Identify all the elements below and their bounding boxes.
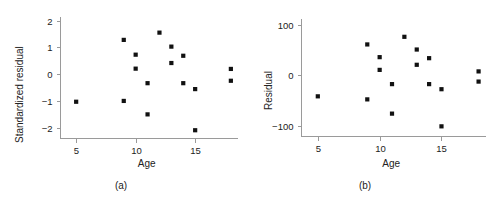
y-tick-label: −2 xyxy=(0,124,53,134)
y-tick-label: 0 xyxy=(0,70,53,80)
x-tick-label: 5 xyxy=(74,146,79,156)
data-point-marker xyxy=(193,87,197,91)
x-tick-label: 10 xyxy=(375,144,386,154)
x-tick-label: 10 xyxy=(131,146,142,156)
data-point-marker xyxy=(145,112,149,116)
data-point-marker xyxy=(439,87,443,91)
x-axis-title: Age xyxy=(382,158,400,169)
data-point-marker xyxy=(193,128,197,132)
data-point-marker xyxy=(316,94,320,98)
x-axis-title: Age xyxy=(138,158,156,169)
data-point-marker xyxy=(134,53,138,57)
data-point-marker xyxy=(122,38,126,42)
data-point-marker xyxy=(181,54,185,58)
data-point-marker xyxy=(427,56,431,60)
data-point-marker xyxy=(229,67,233,71)
data-point-marker xyxy=(365,42,369,46)
figure-scatterplot-pair: −2−101251015AgeStandardized residual(a) … xyxy=(0,0,486,206)
data-point-marker xyxy=(157,31,161,35)
panel-caption: (b) xyxy=(359,180,371,191)
y-tick-label: 100 xyxy=(243,21,294,31)
y-tick-label: −100 xyxy=(243,122,294,132)
x-tick-label: 15 xyxy=(436,144,447,154)
data-point-marker xyxy=(378,68,382,72)
data-point-marker xyxy=(402,35,406,39)
y-axis-title: Residual xyxy=(263,71,274,110)
data-point-marker xyxy=(229,79,233,83)
panel-b: −100010051015AgeResidual(b) xyxy=(243,0,486,206)
data-point-marker xyxy=(378,55,382,59)
data-point-marker xyxy=(427,82,431,86)
plot-canvas-b xyxy=(243,0,486,206)
panel-a: −2−101251015AgeStandardized residual(a) xyxy=(0,0,243,206)
data-point-marker xyxy=(145,81,149,85)
y-tick-label: 1 xyxy=(0,43,53,53)
y-tick-label: −1 xyxy=(0,97,53,107)
plot-area-b xyxy=(243,0,486,206)
data-point-marker xyxy=(181,81,185,85)
data-point-marker xyxy=(74,100,78,104)
data-point-marker xyxy=(476,79,480,83)
data-point-marker xyxy=(169,61,173,65)
x-tick-label: 5 xyxy=(316,144,321,154)
data-point-marker xyxy=(122,99,126,103)
x-tick-label: 15 xyxy=(190,146,201,156)
data-point-marker xyxy=(439,124,443,128)
data-point-marker xyxy=(390,112,394,116)
data-point-marker xyxy=(476,69,480,73)
data-point-marker xyxy=(134,67,138,71)
data-point-marker xyxy=(415,63,419,67)
data-point-marker xyxy=(390,82,394,86)
data-point-marker xyxy=(365,97,369,101)
data-point-marker xyxy=(169,45,173,49)
y-axis-title: Standardized residual xyxy=(14,46,25,143)
y-tick-label: 2 xyxy=(0,17,53,27)
panel-caption: (a) xyxy=(115,180,127,191)
data-point-marker xyxy=(415,47,419,51)
